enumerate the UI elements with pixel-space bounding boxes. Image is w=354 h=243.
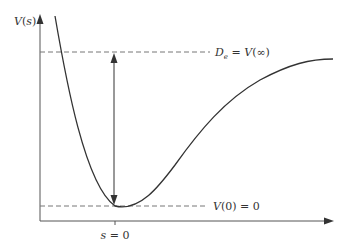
minimum-label: V(0) = 0 <box>213 200 260 213</box>
y-axis-arrow-icon <box>37 14 44 24</box>
y-axis <box>37 14 44 221</box>
potential-curve <box>55 16 333 207</box>
y-axis-label: V(s) <box>14 15 36 28</box>
dissociation-energy-arrow <box>111 53 118 205</box>
potential-energy-diagram: V(s) De = V(∞) V(0) = 0 s = 0 <box>0 0 354 243</box>
dissociation-label: De = V(∞) <box>214 46 270 61</box>
x-axis <box>40 218 334 226</box>
x-axis-arrow-icon <box>324 218 334 225</box>
arrow-up-icon <box>111 53 118 63</box>
x-tick-label: s = 0 <box>101 229 130 242</box>
